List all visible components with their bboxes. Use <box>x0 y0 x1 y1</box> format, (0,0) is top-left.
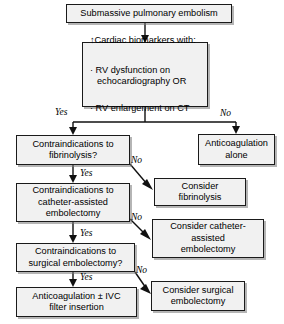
node-consider-catheter-label: Consider catheter- assisted embolectomy <box>156 221 260 255</box>
edge-label-no-catheter: No <box>131 212 142 222</box>
node-contraindications-catheter-label: Contraindications to catheter-assisted e… <box>20 185 126 219</box>
criteria-item-rv-enlargement: · RV enlargement on CT <box>90 103 204 114</box>
edge-label-yes-catheter: Yes <box>80 228 92 238</box>
node-criteria: ↑Cardiac biomarkers with: · RV dysfuncti… <box>82 42 208 107</box>
edge-label-yes-fibrinolysis: Yes <box>80 168 92 178</box>
edge-label-no-surgical: No <box>136 265 147 275</box>
node-consider-catheter: Consider catheter- assisted embolectomy <box>152 219 264 258</box>
node-contraindications-catheter: Contraindications to catheter-assisted e… <box>16 183 130 222</box>
node-consider-fibrinolysis-label: Consider fibrinolysis <box>158 181 242 204</box>
edge-label-yes-surgical: Yes <box>80 272 92 282</box>
edge-label-no-fibrinolysis: No <box>131 155 142 165</box>
node-consider-fibrinolysis: Consider fibrinolysis <box>154 178 246 206</box>
node-contraindications-surgical: Contraindications to surgical embolectom… <box>16 243 135 272</box>
node-contraindications-fibrinolysis: Contraindications to fibrinolysis? <box>16 135 130 165</box>
criteria-title: ↑Cardiac biomarkers with: <box>90 35 204 46</box>
node-anticoagulation-ivc: Anticoagulation ± IVC filter insertion <box>16 287 137 317</box>
flowchart-canvas: Submassive pulmonary embolism ↑Cardiac b… <box>0 0 284 324</box>
node-contraindications-surgical-label: Contraindications to surgical embolectom… <box>20 246 131 269</box>
edge-label-yes-criteria: Yes <box>55 107 67 117</box>
node-contraindications-fibrinolysis-label: Contraindications to fibrinolysis? <box>20 139 126 162</box>
node-consider-surgical: Consider surgical embolectomy <box>151 281 245 311</box>
node-anticoagulation-ivc-label: Anticoagulation ± IVC filter insertion <box>20 291 133 314</box>
node-start-label: Submassive pulmonary embolism <box>70 8 228 19</box>
node-anticoagulation-alone-label: Anticoagulation alone <box>202 138 271 161</box>
node-anticoagulation-alone: Anticoagulation alone <box>198 134 275 165</box>
edge-label-no-criteria: No <box>220 108 231 118</box>
node-consider-surgical-label: Consider surgical embolectomy <box>155 285 241 308</box>
criteria-item-rv-dysfunction: · RV dysfunction on echocardiography OR <box>90 65 204 88</box>
node-start: Submassive pulmonary embolism <box>66 4 232 23</box>
